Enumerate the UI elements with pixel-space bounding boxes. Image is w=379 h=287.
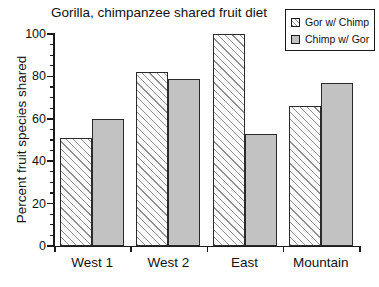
legend-entry: Gor w/ Chimp (291, 14, 374, 30)
bar (321, 83, 353, 246)
x-axis-tick (54, 246, 56, 252)
solid-gray-swatch-icon (291, 35, 300, 44)
y-axis-major-tick (47, 33, 54, 35)
x-axis-tick-label: West 1 (54, 255, 130, 271)
bar (136, 72, 168, 246)
y-axis-major-tick (47, 245, 54, 247)
y-axis-major-tick (47, 76, 54, 78)
legend-entry-label: Gor w/ Chimp (305, 17, 369, 28)
y-axis-major-tick (47, 160, 54, 162)
x-axis-tick (283, 246, 285, 252)
bar (168, 79, 200, 246)
x-axis-tick (359, 246, 361, 252)
y-axis-title: Percent fruit species shared (14, 25, 29, 255)
x-axis-tick (207, 246, 209, 252)
bar (92, 119, 124, 246)
legend-entry-label: Chimp w/ Gor (305, 34, 369, 45)
bar-chart: Gorilla, chimpanzee shared fruit diet 02… (0, 0, 379, 287)
x-axis-tick-label: East (207, 255, 283, 271)
chart-title: Gorilla, chimpanzee shared fruit diet (30, 5, 288, 21)
y-axis-major-tick (47, 203, 54, 205)
x-axis-tick-label: West 2 (130, 255, 206, 271)
bar (213, 34, 245, 246)
bars-layer (54, 34, 359, 246)
bar (289, 106, 321, 246)
bar (60, 138, 92, 246)
legend-entry: Chimp w/ Gor (291, 31, 374, 47)
legend: Gor w/ Chimp Chimp w/ Gor (285, 9, 375, 51)
x-axis-tick-label: Mountain (283, 255, 359, 271)
y-axis-major-tick (47, 118, 54, 120)
bar (245, 134, 277, 246)
x-axis-tick (130, 246, 132, 252)
hatched-swatch-icon (291, 18, 300, 27)
